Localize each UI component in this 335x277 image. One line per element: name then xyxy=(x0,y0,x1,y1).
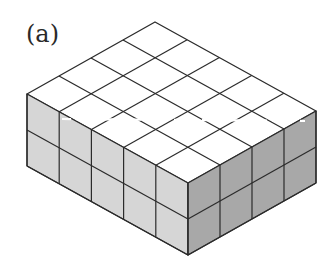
cuboid-diagram xyxy=(0,0,335,277)
